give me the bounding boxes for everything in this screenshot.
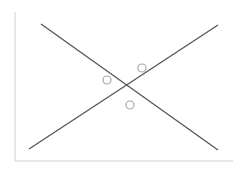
crossing-lines-diagram	[0, 0, 242, 174]
point-upper-right	[138, 64, 146, 72]
diagram-canvas	[0, 0, 242, 174]
point-left	[103, 76, 111, 84]
point-below	[126, 101, 134, 109]
